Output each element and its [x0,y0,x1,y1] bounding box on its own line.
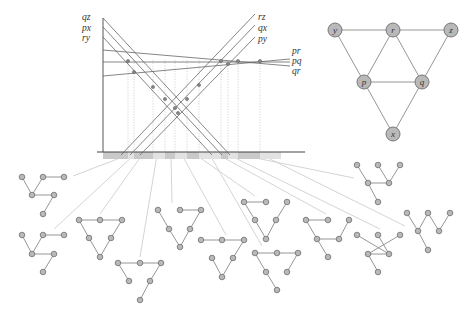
arrangement-vertex [126,59,129,62]
tree-node [230,255,236,261]
tree-edge [158,210,169,229]
graph-node-label: q [420,77,425,87]
interval-segment [221,152,228,159]
tree-node [325,217,331,223]
tree-node [273,217,279,223]
interval-segment [165,152,175,159]
interval-segment [175,152,187,159]
line-pr [103,50,290,66]
arrow-tree-3 [100,155,142,214]
tree-edge [100,238,111,257]
interval-segment [134,152,153,159]
tree-node [386,251,392,257]
tree-node [198,237,204,243]
line-label-qr: qr [292,66,301,76]
tree-edge [287,253,298,272]
arrangement-vertex [219,59,222,62]
interval-segment [128,152,134,159]
line-label-rz: rz [258,12,266,22]
tree-node [29,251,35,257]
line-label-pr: pr [291,46,301,56]
tree-node [51,192,57,198]
interval-segment [103,152,128,159]
graph-edge-zq [422,30,451,82]
line-label-qx: qx [258,23,268,33]
tree-node [40,269,46,275]
tree-node [436,228,442,234]
tree-node [303,217,309,223]
tree-node [252,250,258,256]
tree-node [40,174,46,180]
tree-edge [306,220,317,239]
arrow-tree-6 [182,155,226,235]
tree-node [397,162,403,168]
tree-node [284,269,290,275]
tree-node [187,226,193,232]
tree-1 [19,174,67,217]
graph-node-label: x [390,129,395,139]
tree-node [263,199,269,205]
tree-node [108,235,114,241]
base-graph: yrzpqx [328,23,458,141]
tree-node [158,260,164,266]
tree-edge [255,253,266,272]
tree-node [325,254,331,260]
tree-edge [190,210,201,229]
tree-node [241,237,247,243]
arrangement-vertex [197,83,200,86]
tree-node [51,251,57,257]
tree-node [29,192,35,198]
tree-edge [418,231,428,250]
tree-10 [354,232,403,275]
line-label-pq: pq [291,56,302,66]
line-qx [130,25,255,155]
tree-node [284,199,290,205]
tree-9 [303,217,352,260]
tree-edge [32,235,43,254]
line-qz [103,18,230,155]
tree-node [61,174,67,180]
graph-edge-rp [364,30,393,82]
tree-4 [115,260,164,303]
tree-node [252,217,258,223]
arrangement-vertex [132,70,135,73]
tree-node [155,207,161,213]
tree-node [19,232,25,238]
tree-node [365,251,371,257]
tree-edge [43,195,54,214]
graph-node-label: p [361,77,367,87]
arrow-tree-7 [196,155,255,196]
tree-node [425,210,431,216]
graph-edge-qx [393,82,422,134]
tree-node [404,210,410,216]
line-px [103,27,222,155]
tree-node [274,250,280,256]
tree-node [336,236,342,242]
graph-edge-rq [393,30,422,82]
tree-node [76,217,82,223]
tree-node [137,297,143,303]
interval-segment [228,152,238,159]
arrangement-vertex [236,59,239,62]
tree-node [415,228,421,234]
line-rz [121,14,255,155]
tree-edge [22,235,32,254]
arrow-tree-8 [210,155,262,246]
interval-segment [187,152,199,159]
arrow-tree-9 [219,155,326,214]
tree-node [386,180,392,186]
tree-node [365,180,371,186]
arrangement-vertex [226,62,229,65]
tree-edge [212,258,222,277]
tree-node [40,211,46,217]
tree-3 [76,217,125,260]
tree-node [295,250,301,256]
tree-node [137,260,143,266]
tree-node [425,247,431,253]
graph-edge-px [364,82,393,134]
tree-node [375,232,381,238]
tree-node [198,207,204,213]
tree-node [86,235,92,241]
line-label-px: px [81,23,92,33]
tree-node [147,278,153,284]
